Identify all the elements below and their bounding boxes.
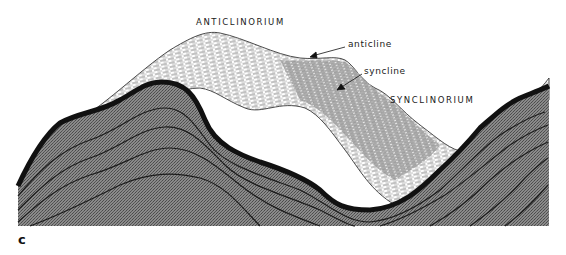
syncline-label: syncline [364, 66, 406, 76]
anticline-label: anticline [348, 39, 392, 49]
synclinorium-label: SYNCLINORIUM [390, 95, 474, 105]
panel-letter: c [18, 232, 26, 247]
anticlinorium-label: ANTICLINORIUM [196, 17, 285, 27]
fold-block-diagram: ANTICLINORIUM anticline syncline SYNCLIN… [0, 0, 566, 255]
block-diagram-svg [0, 0, 566, 255]
